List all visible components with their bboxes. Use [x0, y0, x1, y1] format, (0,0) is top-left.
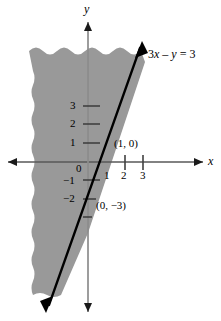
- equation-result: = 3: [177, 47, 196, 61]
- x-intercept-label: (1, 0): [114, 138, 138, 149]
- origin-label: 0: [76, 163, 82, 174]
- y-axis-label: y: [84, 3, 89, 15]
- inequality-graph-figure: y x 0 3 2 1 −1 −2 1 2 3 (1, 0) (0, −3) 3…: [0, 0, 221, 321]
- x-tick-label-3: 3: [140, 170, 146, 181]
- y-tick-label-neg2: −2: [63, 193, 75, 204]
- y-tick-label-2: 2: [70, 118, 76, 129]
- x-tick-label-2: 2: [121, 170, 127, 181]
- y-tick-label-1: 1: [70, 137, 76, 148]
- y-tick-label-3: 3: [70, 100, 76, 111]
- equation-operator: –: [159, 47, 171, 61]
- y-tick-label-neg1: −1: [63, 175, 75, 186]
- y-intercept-label: (0, −3): [96, 200, 126, 211]
- x-axis-label: x: [208, 155, 213, 167]
- x-tick-label-1: 1: [104, 170, 110, 181]
- equation-label: 3x – y = 3: [148, 48, 195, 60]
